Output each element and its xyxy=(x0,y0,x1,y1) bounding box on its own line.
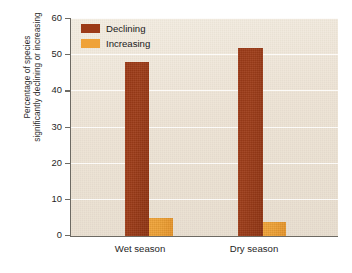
y-tick-mark-30 xyxy=(65,127,70,128)
legend-item-increasing: Increasing xyxy=(81,37,150,50)
y-tick-label-30: 30 xyxy=(36,121,62,132)
y-tick-mark-60 xyxy=(65,18,70,19)
gridline-30 xyxy=(71,127,338,128)
bar-wet-season-declining xyxy=(125,62,149,236)
gridline-60 xyxy=(71,18,338,19)
x-axis-label-dry-season: Dry season xyxy=(212,243,296,254)
gridline-50 xyxy=(71,54,338,55)
legend-label-declining: Declining xyxy=(106,23,145,34)
bar-dry-season-increasing xyxy=(263,222,286,237)
y-tick-label-10: 10 xyxy=(36,193,62,204)
y-tick-mark-40 xyxy=(65,90,70,91)
y-tick-label-60: 60 xyxy=(36,12,62,23)
bar-chart: Percentage of species significantly decl… xyxy=(0,0,352,273)
bar-dry-season-declining xyxy=(238,48,263,237)
bar-texture xyxy=(149,218,173,236)
gridline-10 xyxy=(71,199,338,200)
y-tick-mark-20 xyxy=(65,163,70,164)
y-tick-label-40: 40 xyxy=(36,84,62,95)
bar-texture xyxy=(263,222,286,237)
legend: Declining Increasing xyxy=(81,22,150,52)
legend-label-increasing: Increasing xyxy=(106,38,150,49)
y-axis-title-line-1: Percentage of species xyxy=(22,35,32,118)
y-tick-mark-0 xyxy=(65,235,70,236)
bar-wet-season-increasing xyxy=(149,218,173,236)
y-tick-label-0: 0 xyxy=(36,229,62,240)
bar-texture xyxy=(125,62,149,236)
y-tick-label-50: 50 xyxy=(36,48,62,59)
legend-swatch-declining-icon xyxy=(81,24,100,33)
gridline-20 xyxy=(71,163,338,164)
y-tick-label-20: 20 xyxy=(36,157,62,168)
legend-item-declining: Declining xyxy=(81,22,150,35)
gridline-40 xyxy=(71,90,338,91)
y-tick-mark-10 xyxy=(65,199,70,200)
y-tick-mark-50 xyxy=(65,54,70,55)
legend-swatch-increasing-icon xyxy=(81,39,100,48)
x-axis-label-wet-season: Wet season xyxy=(98,243,182,254)
bar-texture xyxy=(238,48,263,237)
